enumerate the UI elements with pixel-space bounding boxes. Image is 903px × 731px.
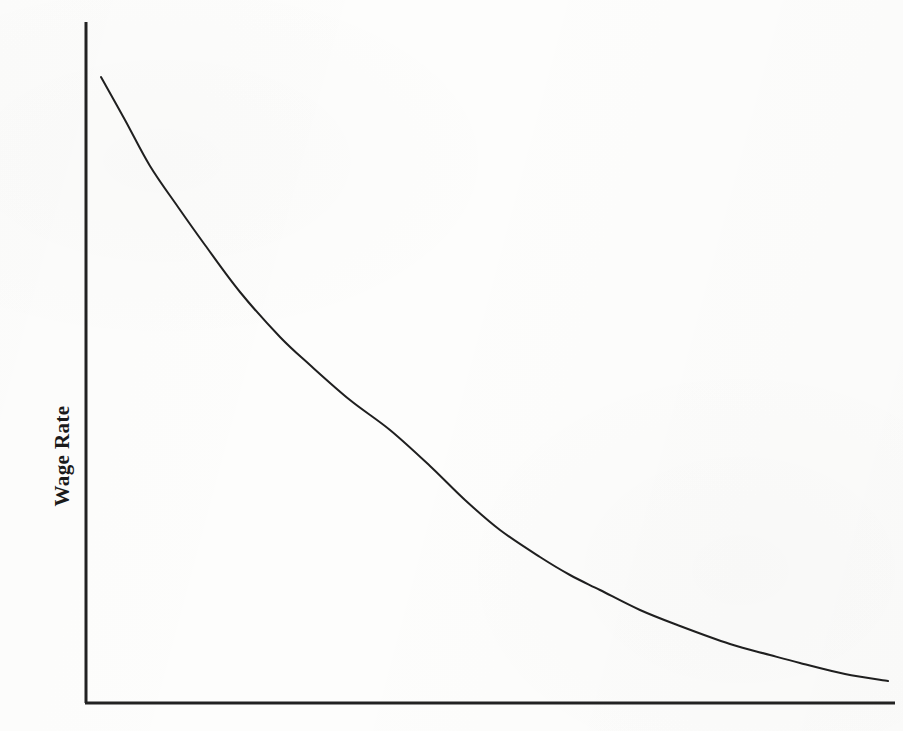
- plot-area: [0, 0, 903, 731]
- labor-demand-curve: [101, 77, 888, 681]
- chart-figure: Wage Rate: [0, 0, 903, 731]
- y-axis-label: Wage Rate: [50, 406, 75, 507]
